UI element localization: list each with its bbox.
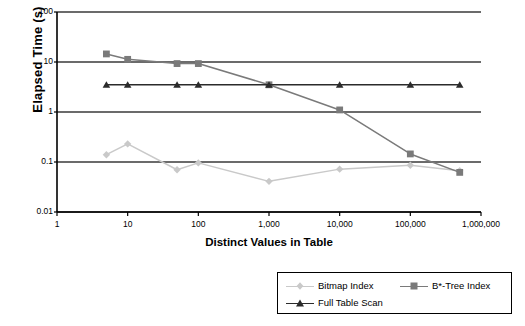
x-tick-label: 1,000,000 bbox=[451, 219, 511, 229]
x-tick-label: 100,000 bbox=[380, 219, 440, 229]
legend-marker-diamond-icon bbox=[286, 280, 314, 292]
y-tick-label: 100 bbox=[13, 6, 53, 16]
data-point-square bbox=[124, 56, 131, 63]
legend-item-btree-index: B*-Tree Index bbox=[400, 280, 490, 292]
data-point-diamond bbox=[103, 151, 110, 158]
legend-marker-triangle-icon bbox=[286, 297, 314, 309]
data-point-square bbox=[456, 169, 463, 176]
legend-label-full-table-scan: Full Table Scan bbox=[318, 297, 383, 309]
series-line bbox=[106, 54, 459, 172]
data-point-diamond bbox=[265, 178, 272, 185]
chart-container: Elapsed Time (s) Distinct Values in Tabl… bbox=[0, 0, 525, 326]
data-point-square bbox=[336, 107, 343, 114]
data-point-square bbox=[174, 60, 181, 67]
chart-legend: Bitmap Index B*-Tree Index Full Table Sc… bbox=[277, 272, 512, 314]
legend-label-btree-index: B*-Tree Index bbox=[432, 280, 490, 292]
data-point-diamond bbox=[195, 159, 202, 166]
legend-item-full-table-scan: Full Table Scan bbox=[286, 297, 383, 309]
data-point-square bbox=[103, 51, 110, 58]
x-tick-label: 100 bbox=[168, 219, 228, 229]
legend-marker-square-icon bbox=[400, 280, 428, 292]
data-point-diamond bbox=[336, 165, 343, 172]
x-axis-title: Distinct Values in Table bbox=[57, 236, 481, 248]
data-point-square bbox=[407, 151, 414, 158]
data-point-diamond bbox=[173, 166, 180, 173]
y-tick-label: 10 bbox=[13, 56, 53, 66]
y-tick-label: 1 bbox=[13, 106, 53, 116]
y-tick-label: 0.1 bbox=[13, 156, 53, 166]
y-tick-label: 0.01 bbox=[13, 206, 53, 216]
x-tick-label: 1 bbox=[27, 219, 87, 229]
legend-item-bitmap-index: Bitmap Index bbox=[286, 280, 373, 292]
series-b-tree-index bbox=[103, 51, 463, 176]
x-tick-label: 1,000 bbox=[239, 219, 299, 229]
data-point-diamond bbox=[124, 140, 131, 147]
x-tick-label: 10 bbox=[98, 219, 158, 229]
legend-label-bitmap-index: Bitmap Index bbox=[318, 280, 373, 292]
data-point-square bbox=[195, 60, 202, 67]
x-tick-label: 10,000 bbox=[310, 219, 370, 229]
series-full-table-scan bbox=[103, 81, 464, 88]
